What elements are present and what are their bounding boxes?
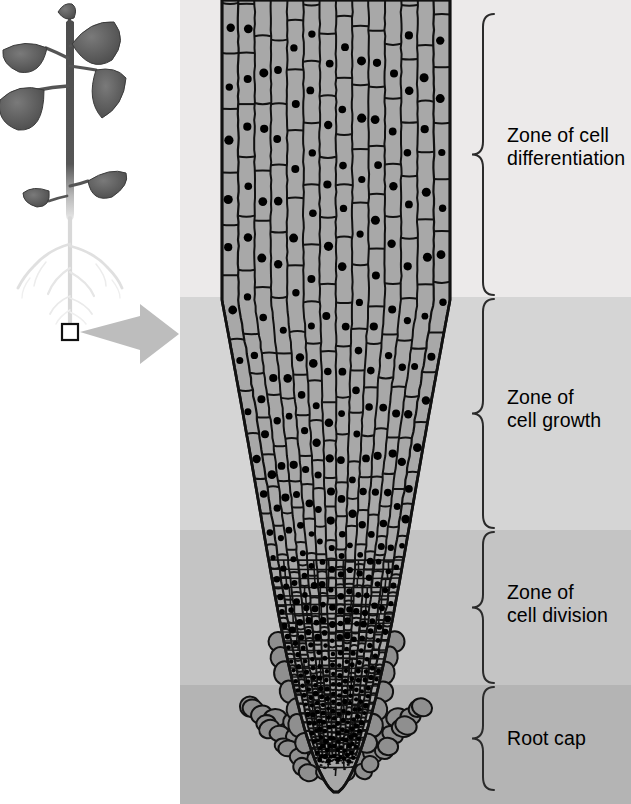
zone-label-line2: differentiation — [507, 147, 625, 170]
magnified-region-box[interactable] — [62, 324, 78, 340]
brace-rootcap — [472, 687, 494, 790]
brace-growth — [472, 299, 494, 528]
figure-root-tip-zones: Zone of cell differentiation Zone of cel… — [0, 0, 631, 804]
zone-label-rootcap: Root cap — [507, 727, 586, 750]
magnification-arrow — [80, 304, 179, 364]
plant-svg — [0, 0, 180, 804]
zone-label-line2: cell growth — [507, 409, 601, 432]
brace-division — [472, 532, 494, 683]
plant-illustration-pane — [0, 0, 180, 804]
plant-leaves — [0, 4, 127, 207]
zone-label-line1: Zone of — [507, 581, 608, 604]
zone-label-differentiation: Zone of cell differentiation — [507, 124, 625, 170]
root-diagram-panel: Zone of cell differentiation Zone of cel… — [180, 0, 631, 804]
plant-root-system — [18, 218, 122, 324]
zone-label-growth: Zone of cell growth — [507, 386, 601, 432]
zone-label-line2: cell division — [507, 604, 608, 627]
zone-label-line1: Root cap — [507, 727, 586, 750]
zone-label-line1: Zone of cell — [507, 124, 625, 147]
brace-differentiation — [472, 14, 494, 295]
zone-label-line1: Zone of — [507, 386, 601, 409]
zone-label-division: Zone of cell division — [507, 581, 608, 627]
